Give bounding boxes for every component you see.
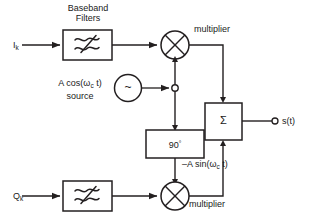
summing-junction-symbol: Σ bbox=[205, 115, 242, 125]
quadrature-carrier-label: –A sin(ωc t) bbox=[182, 159, 228, 172]
input-label-i: Ik bbox=[13, 40, 19, 53]
baseband-filters-line2: Filters bbox=[58, 13, 118, 23]
output-terminal bbox=[272, 118, 278, 124]
input-label-q: Qk bbox=[13, 191, 23, 204]
input-i-subscript: k bbox=[16, 44, 19, 51]
input-q-text: Q bbox=[13, 191, 20, 201]
multiplier-top-label: multiplier bbox=[194, 24, 230, 34]
carrier-source-word: source bbox=[47, 91, 113, 101]
quadrature-carrier-post: t) bbox=[220, 159, 228, 169]
carrier-source-expression: A cos(ωc t) bbox=[47, 78, 113, 91]
arrowhead-summer-bottom bbox=[220, 140, 226, 146]
phase-shifter-label: 90° bbox=[146, 139, 204, 150]
baseband-filters-line1: Baseband bbox=[58, 3, 118, 13]
carrier-source-caption: A cos(ωc t) source bbox=[47, 78, 113, 101]
carrier-source-pre: A cos(ω bbox=[58, 78, 90, 88]
wire-mixer-top-to-summer bbox=[189, 45, 223, 100]
junction-node bbox=[172, 85, 178, 91]
diagram-vector-layer bbox=[0, 0, 312, 223]
multiplier-bottom-label: multiplier bbox=[189, 199, 225, 209]
baseband-filters-caption: Baseband Filters bbox=[58, 3, 118, 23]
quadrature-carrier-pre: –A sin(ω bbox=[182, 159, 217, 169]
input-q-subscript: k bbox=[20, 195, 23, 202]
output-signal-label: s(t) bbox=[282, 116, 295, 126]
sine-source-icon: ~ bbox=[114, 82, 142, 92]
arrowhead-summer-top bbox=[220, 97, 226, 103]
carrier-source-post: t) bbox=[94, 78, 102, 88]
block-diagram-canvas: Baseband Filters Ik Qk multiplier multip… bbox=[0, 0, 312, 223]
phase-shifter-degree: ° bbox=[179, 140, 182, 147]
phase-shifter-value: 90 bbox=[169, 140, 179, 150]
